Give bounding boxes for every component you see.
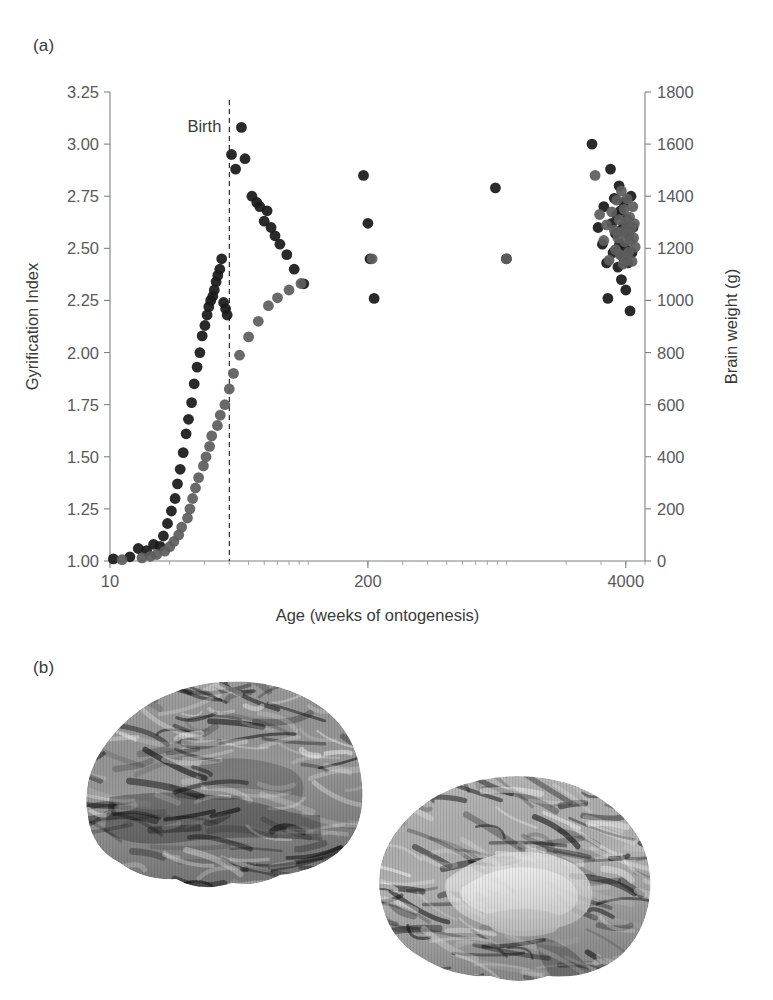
data-point [189,378,200,389]
chart-panel-a: (a) 1.001.251.501.752.002.252.502.753.00… [0,0,773,640]
x-tick-label: 200 [354,572,382,590]
data-point [214,264,225,275]
data-point [262,205,273,216]
data-point [604,255,615,266]
data-point [204,441,215,452]
data-point [628,233,639,244]
data-point [275,239,286,250]
data-point [367,253,378,264]
birth-annotation-label: Birth [187,117,221,135]
data-point [175,464,186,475]
data-point [206,431,217,442]
y-tick-label-left: 2.50 [67,239,99,257]
data-point [212,420,223,431]
data-point [198,461,209,472]
data-point [117,554,128,565]
data-point [224,384,235,395]
y-tick-label-right: 1400 [657,187,694,205]
y-tick-label-left: 2.00 [67,344,99,362]
data-point [620,285,631,296]
data-point [587,139,598,150]
data-point [215,410,226,421]
data-point [236,122,247,133]
data-point [284,285,295,296]
y-tick-label-left: 1.25 [67,500,99,518]
x-tick-label: 10 [101,572,119,590]
y-tick-label-left: 1.50 [67,448,99,466]
data-point [170,493,181,504]
x-tick-label: 4000 [607,572,644,590]
x-axis-title: Age (weeks of ontogenesis) [276,606,480,624]
data-point [281,249,292,260]
y-tick-label-left: 2.25 [67,291,99,309]
data-point [296,278,307,289]
brain-surface [350,762,670,992]
data-point [172,479,183,490]
brain-surface [52,665,372,900]
y-tick-label-left: 1.00 [67,552,99,570]
y-tick-label-right: 200 [657,500,685,518]
y-tick-label-left: 3.00 [67,135,99,153]
data-point [234,350,245,361]
panel-b-brain-images: (b) [0,640,773,1000]
data-point [627,256,638,267]
data-point [263,300,274,311]
y-tick-label-right: 800 [657,344,685,362]
data-point [272,292,283,303]
data-point [590,170,601,181]
data-point [630,242,641,253]
data-point [181,428,192,439]
data-point [594,209,605,220]
data-point [629,218,640,229]
data-point [178,447,189,458]
scatter-plot: 1.001.251.501.752.002.252.502.753.003.25… [0,0,773,640]
data-point [190,483,201,494]
data-point [289,264,300,275]
data-point [201,451,212,462]
data-point [228,368,239,379]
data-point [253,316,264,327]
y-tick-label-right: 0 [657,552,666,570]
y-axis-title-left: Gyrification Index [23,262,41,390]
y-tick-label-right: 1200 [657,239,694,257]
data-point [616,274,627,285]
data-point [216,253,227,264]
data-point [158,531,169,542]
data-point [195,347,206,358]
data-point [197,331,208,342]
data-point [605,164,616,175]
data-point [358,170,369,181]
y-tick-label-right: 600 [657,396,685,414]
data-point [603,293,614,304]
data-point [501,253,512,264]
data-point [369,293,380,304]
data-point [162,518,173,529]
y-axis-title-right: Brain weight (g) [722,269,740,385]
data-point [193,472,204,483]
data-point [187,493,198,504]
data-point [240,153,251,164]
y-tick-label-left: 2.75 [67,187,99,205]
y-tick-label-right: 1000 [657,291,694,309]
data-point [625,306,636,317]
data-point [627,201,638,212]
data-point [182,513,193,524]
data-point [490,183,501,194]
y-tick-label-right: 1800 [657,83,694,101]
data-point [230,164,241,175]
data-point [183,414,194,425]
data-point [243,332,254,343]
y-tick-label-right: 400 [657,448,685,466]
brain-medial-view-image [350,762,670,992]
brain-lateral-view-image [52,665,372,900]
data-point [186,397,197,408]
data-point [363,218,374,229]
data-point [192,362,203,373]
y-tick-label-left: 1.75 [67,396,99,414]
data-point [185,504,196,515]
data-point [220,399,231,410]
y-tick-label-left: 3.25 [67,83,99,101]
data-point [166,506,177,517]
data-point [222,310,233,321]
data-point [598,235,609,246]
